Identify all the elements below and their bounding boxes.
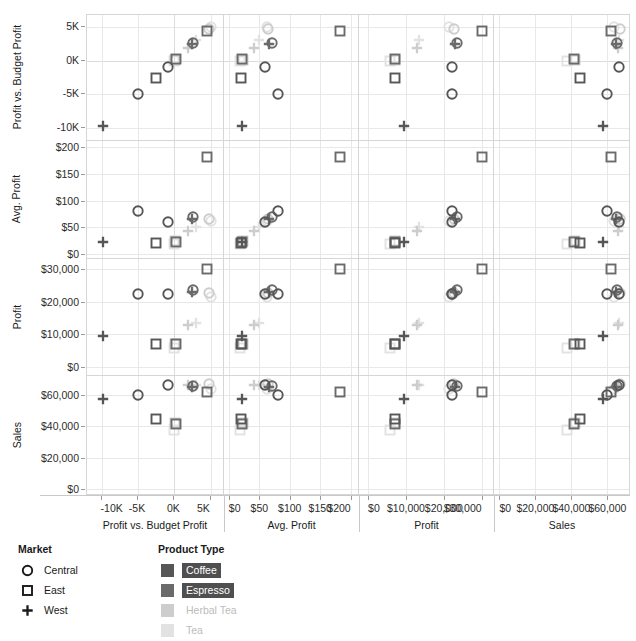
legend-item-market-central[interactable]: Central xyxy=(18,560,80,580)
data-point-central-espresso[interactable] xyxy=(187,210,200,223)
data-point-east-coffee[interactable] xyxy=(235,72,248,85)
data-point-central-coffee[interactable] xyxy=(446,379,459,392)
data-point-west-coffee[interactable] xyxy=(398,392,411,405)
data-point-central-herbal-tea[interactable] xyxy=(202,213,215,226)
data-point-east-espresso[interactable] xyxy=(476,25,489,38)
data-point-east-espresso[interactable] xyxy=(605,150,618,163)
data-point-central-coffee[interactable] xyxy=(161,379,174,392)
data-point-west-herbal-tea[interactable] xyxy=(411,379,424,392)
splom-panel-r4-c3[interactable] xyxy=(359,376,494,495)
data-point-east-coffee[interactable] xyxy=(388,72,401,85)
data-point-central-espresso[interactable] xyxy=(265,37,278,50)
data-point-central-coffee[interactable] xyxy=(446,60,459,73)
data-point-central-coffee[interactable] xyxy=(258,60,271,73)
splom-panel-r3-c3[interactable] xyxy=(359,259,494,376)
data-point-west-coffee[interactable] xyxy=(236,120,249,133)
data-point-west-coffee[interactable] xyxy=(596,236,609,249)
data-point-east-espresso[interactable] xyxy=(605,262,618,275)
data-point-west-herbal-tea[interactable] xyxy=(612,318,625,331)
splom-panel-r2-c2[interactable] xyxy=(224,141,359,259)
data-point-east-coffee[interactable] xyxy=(573,413,586,426)
splom-grid[interactable] xyxy=(86,14,630,495)
data-point-central-coffee[interactable] xyxy=(446,288,459,301)
data-point-central-coffee[interactable] xyxy=(258,379,271,392)
data-point-central-coffee[interactable] xyxy=(131,205,144,218)
data-point-west-coffee[interactable] xyxy=(596,120,609,133)
data-point-west-herbal-tea[interactable] xyxy=(411,318,424,331)
data-point-central-coffee[interactable] xyxy=(131,389,144,402)
data-point-east-coffee[interactable] xyxy=(573,72,586,85)
data-point-east-coffee[interactable] xyxy=(235,237,248,250)
data-point-west-coffee[interactable] xyxy=(236,392,249,405)
splom-panel-r1-c1[interactable] xyxy=(86,14,224,141)
splom-panel-r1-c3[interactable] xyxy=(359,14,494,141)
legend-product-type[interactable]: Product Type CoffeeEspressoHerbal TeaTea xyxy=(158,543,241,640)
data-point-central-coffee[interactable] xyxy=(131,88,144,101)
data-point-central-coffee[interactable] xyxy=(271,205,284,218)
data-point-central-coffee[interactable] xyxy=(258,216,271,229)
data-point-central-espresso[interactable] xyxy=(187,284,200,297)
data-point-west-herbal-tea[interactable] xyxy=(248,318,261,331)
data-point-west-coffee[interactable] xyxy=(596,330,609,343)
data-point-central-herbal-tea[interactable] xyxy=(262,23,275,36)
data-point-central-herbal-tea[interactable] xyxy=(202,287,215,300)
data-point-east-espresso[interactable] xyxy=(388,52,401,65)
data-point-east-coffee[interactable] xyxy=(388,413,401,426)
splom-panel-r3-c4[interactable] xyxy=(494,259,630,376)
data-point-east-espresso[interactable] xyxy=(200,262,213,275)
legend-item-product-tea[interactable]: Tea xyxy=(158,620,241,640)
data-point-east-espresso[interactable] xyxy=(333,385,346,398)
splom-panel-r4-c1[interactable] xyxy=(86,376,224,495)
data-point-central-coffee[interactable] xyxy=(131,288,144,301)
data-point-east-coffee[interactable] xyxy=(149,413,162,426)
legend-item-product-espresso[interactable]: Espresso xyxy=(158,580,241,600)
data-point-east-espresso[interactable] xyxy=(170,338,183,351)
data-point-central-coffee[interactable] xyxy=(446,216,459,229)
data-point-east-espresso[interactable] xyxy=(476,150,489,163)
legend-market[interactable]: Market CentralEastWest xyxy=(18,543,80,620)
data-point-west-coffee[interactable] xyxy=(398,120,411,133)
data-point-central-coffee[interactable] xyxy=(161,288,174,301)
data-point-central-espresso[interactable] xyxy=(187,380,200,393)
data-point-east-espresso[interactable] xyxy=(170,417,183,430)
data-point-east-espresso[interactable] xyxy=(333,25,346,38)
splom-panel-r3-c2[interactable] xyxy=(224,259,359,376)
data-point-west-herbal-tea[interactable] xyxy=(248,41,261,54)
data-point-central-espresso[interactable] xyxy=(451,37,464,50)
legend-item-product-coffee[interactable]: Coffee xyxy=(158,560,241,580)
data-point-east-espresso[interactable] xyxy=(605,25,618,38)
data-point-east-espresso[interactable] xyxy=(568,52,581,65)
data-point-central-espresso[interactable] xyxy=(187,37,200,50)
data-point-central-coffee[interactable] xyxy=(161,216,174,229)
data-point-east-espresso[interactable] xyxy=(333,262,346,275)
data-point-west-coffee[interactable] xyxy=(97,236,110,249)
data-point-central-coffee[interactable] xyxy=(271,288,284,301)
data-point-east-coffee[interactable] xyxy=(149,72,162,85)
data-point-central-coffee[interactable] xyxy=(258,288,271,301)
data-point-central-coffee[interactable] xyxy=(446,88,459,101)
data-point-east-espresso[interactable] xyxy=(200,25,213,38)
data-point-central-coffee[interactable] xyxy=(612,288,625,301)
data-point-west-herbal-tea[interactable] xyxy=(411,225,424,238)
splom-panel-r4-c2[interactable] xyxy=(224,376,359,495)
data-point-west-herbal-tea[interactable] xyxy=(182,318,195,331)
data-point-west-herbal-tea[interactable] xyxy=(411,41,424,54)
data-point-east-espresso[interactable] xyxy=(170,236,183,249)
data-point-central-coffee[interactable] xyxy=(612,216,625,229)
legend-item-market-east[interactable]: East xyxy=(18,580,80,600)
data-point-central-coffee[interactable] xyxy=(161,60,174,73)
splom-panel-r2-c4[interactable] xyxy=(494,141,630,259)
data-point-east-espresso[interactable] xyxy=(200,385,213,398)
data-point-west-coffee[interactable] xyxy=(97,330,110,343)
splom-panel-r2-c3[interactable] xyxy=(359,141,494,259)
splom-panel-r1-c2[interactable] xyxy=(224,14,359,141)
data-point-east-coffee[interactable] xyxy=(573,337,586,350)
data-point-central-coffee[interactable] xyxy=(271,389,284,402)
data-point-central-coffee[interactable] xyxy=(601,88,614,101)
data-point-central-herbal-tea[interactable] xyxy=(447,23,460,36)
splom-panel-r3-c1[interactable] xyxy=(86,259,224,376)
data-point-central-coffee[interactable] xyxy=(612,379,625,392)
data-point-east-coffee[interactable] xyxy=(235,413,248,426)
data-point-east-espresso[interactable] xyxy=(476,262,489,275)
splom-panel-r1-c4[interactable] xyxy=(494,14,630,141)
